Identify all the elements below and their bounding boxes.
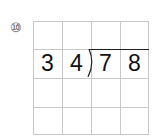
dividend-digit-ones: 8: [120, 49, 149, 78]
grid-line: [120, 21, 121, 135]
divisor-digit-tens: 3: [33, 49, 62, 78]
long-division-grid: 3 4 7 8: [33, 21, 149, 135]
division-bar: [89, 49, 149, 50]
grid-line: [33, 21, 34, 135]
grid-line: [91, 21, 92, 135]
problem-number: ⑩: [10, 21, 22, 35]
grid-line: [148, 21, 149, 135]
division-bracket-icon: [84, 49, 96, 77]
grid-line: [62, 21, 63, 135]
